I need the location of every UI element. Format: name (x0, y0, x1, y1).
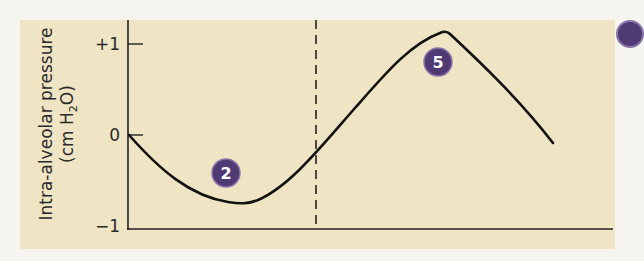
step-badge-2: 2 (212, 159, 240, 187)
pressure-curve (129, 32, 553, 204)
cropped-step-badge (616, 20, 644, 48)
step-badge-5: 5 (424, 48, 452, 76)
svg-text:5: 5 (432, 53, 443, 72)
svg-text:2: 2 (220, 164, 231, 183)
